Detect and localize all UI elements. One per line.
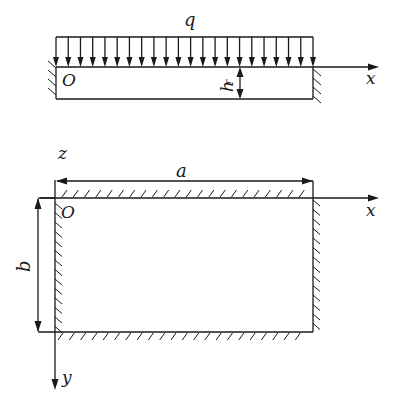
load-arrow-head-icon bbox=[77, 57, 83, 67]
thickness-arrow-up-icon bbox=[237, 67, 244, 77]
load-arrow-head-icon bbox=[188, 57, 194, 67]
load-arrow-head-icon bbox=[126, 57, 132, 67]
load-arrow-head-icon bbox=[286, 57, 292, 67]
y-axis-label: y bbox=[61, 367, 72, 387]
load-arrow-head-icon bbox=[200, 57, 206, 67]
load-arrow-head-icon bbox=[102, 57, 108, 67]
x-axis-label-plan: x bbox=[366, 200, 376, 220]
height-label: b bbox=[13, 260, 34, 272]
load-arrow-head-icon bbox=[151, 57, 157, 67]
load-label: q bbox=[184, 9, 196, 30]
plate-diagram: q x O bbox=[0, 0, 399, 399]
distributed-load-arrows bbox=[53, 37, 316, 67]
load-arrow-head-icon bbox=[65, 57, 71, 67]
width-label: a bbox=[176, 160, 187, 181]
load-arrow-head-icon bbox=[310, 57, 316, 67]
load-arrow-head-icon bbox=[224, 57, 230, 67]
height-arrow-up-icon bbox=[35, 198, 42, 209]
load-arrow-head-icon bbox=[298, 57, 304, 67]
bottom-edge-clamp-hatch-icon bbox=[58, 333, 300, 340]
width-arrow-right-icon bbox=[302, 178, 313, 185]
thickness-subscript: r bbox=[223, 79, 233, 84]
right-edge-clamp-hatch-icon bbox=[313, 200, 320, 330]
thickness-arrow-down-icon bbox=[237, 89, 244, 99]
load-arrow-head-icon bbox=[249, 57, 255, 67]
load-arrow-head-icon bbox=[114, 57, 120, 67]
load-arrow-head-icon bbox=[90, 57, 96, 67]
plan-view: z a x y O b bbox=[13, 143, 379, 390]
y-axis-arrow-icon bbox=[52, 379, 59, 390]
load-arrow-head-icon bbox=[139, 57, 145, 67]
load-arrow-head-icon bbox=[212, 57, 218, 67]
z-axis-label: z bbox=[57, 143, 68, 163]
side-view: q x O bbox=[48, 9, 379, 103]
top-edge-clamp-hatch-icon bbox=[62, 190, 304, 197]
width-arrow-left-icon bbox=[56, 178, 67, 185]
left-edge-clamp-hatch-icon bbox=[55, 203, 62, 333]
left-clamp-hatch-icon bbox=[48, 61, 56, 95]
load-arrow-head-icon bbox=[175, 57, 181, 67]
x-axis-label-top: x bbox=[366, 68, 376, 88]
load-arrow-head-icon bbox=[261, 57, 267, 67]
origin-label-plan: O bbox=[61, 202, 75, 222]
right-clamp-hatch-icon bbox=[313, 69, 321, 103]
load-arrow-head-icon bbox=[163, 57, 169, 67]
load-arrow-head-icon bbox=[273, 57, 279, 67]
load-arrow-head-icon bbox=[237, 57, 243, 67]
origin-label-top: O bbox=[62, 70, 76, 90]
height-arrow-down-icon bbox=[35, 321, 42, 332]
